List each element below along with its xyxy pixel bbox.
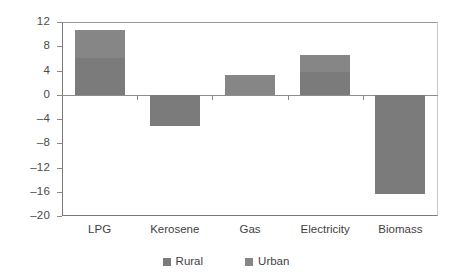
x-axis-category-label: Kerosene: [137, 224, 212, 236]
legend-item[interactable]: Urban: [245, 256, 289, 268]
legend-swatch-icon: [245, 258, 253, 266]
x-axis-category-label: LPG: [62, 224, 137, 236]
bar-group: [375, 0, 425, 280]
bar-group: [75, 0, 125, 280]
x-axis-category-label: Biomass: [363, 224, 438, 236]
bars-layer: [0, 0, 452, 280]
bar-segment-urban: [75, 30, 125, 57]
legend-item[interactable]: Rural: [163, 256, 203, 268]
legend-label: Rural: [176, 256, 203, 268]
bar-group: [225, 0, 275, 280]
bar-segment-rural: [75, 58, 125, 95]
bar-group: [300, 0, 350, 280]
x-axis-category-label: Electricity: [288, 224, 363, 236]
legend-swatch-icon: [163, 258, 171, 266]
bar-segment-rural: [375, 95, 425, 194]
bar-segment-rural: [300, 72, 350, 94]
bar-segment-urban: [225, 75, 275, 95]
legend-label: Urban: [258, 256, 289, 268]
bar-segment-urban: [300, 55, 350, 72]
chart-legend: RuralUrban: [0, 256, 452, 268]
x-axis-category-label: Gas: [212, 224, 287, 236]
bar-group: [150, 0, 200, 280]
bar-segment-rural: [150, 95, 200, 127]
bar-chart: Mtoe 12840–4–8–12–16–20 LPGKeroseneGasEl…: [0, 0, 452, 280]
